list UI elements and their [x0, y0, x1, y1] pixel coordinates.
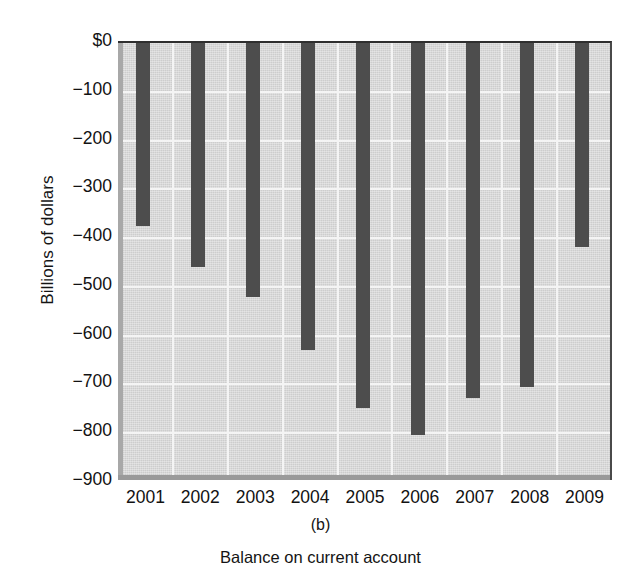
gridline-vertical [227, 43, 229, 480]
plot-area [118, 41, 612, 480]
plot-bottom-edge [118, 475, 610, 480]
y-axis-tick-label: $0 [54, 32, 112, 50]
gridline-vertical [556, 43, 558, 480]
gridline-vertical [446, 43, 448, 480]
figure-caption: Balance on current account [0, 548, 641, 567]
gridline-vertical [282, 43, 284, 480]
bar [191, 43, 205, 267]
y-axis-tick-label: −100 [54, 81, 112, 99]
x-axis-tick-label-group: 200120022003200420052006200720082009 [118, 487, 612, 513]
bar [466, 43, 480, 398]
gridline-vertical [391, 43, 393, 480]
y-axis-tick-label: −700 [54, 374, 112, 392]
panel-label: (b) [0, 516, 641, 534]
gridline-vertical [337, 43, 339, 480]
y-axis-tick-label: −300 [54, 179, 112, 197]
gridline-horizontal [118, 432, 610, 434]
y-axis-tick-label: −400 [54, 227, 112, 245]
gridline-vertical [501, 43, 503, 480]
bar [575, 43, 589, 247]
chart-figure: Billions of dollars $0−100−200−300−400−5… [0, 0, 641, 581]
bar [411, 43, 425, 435]
y-axis-tick-label-group: $0−100−200−300−400−500−600−700−800−900 [54, 41, 112, 480]
y-axis-tick-label: −800 [54, 422, 112, 440]
bar [301, 43, 315, 350]
y-axis-tick-label: −600 [54, 325, 112, 343]
plot-left-edge [118, 43, 123, 480]
y-axis-tick-label: −500 [54, 276, 112, 294]
x-axis-tick-label: 2009 [550, 487, 620, 509]
gridline-vertical [172, 43, 174, 480]
bar [136, 43, 150, 226]
bar [356, 43, 370, 408]
y-axis-tick-label: −200 [54, 130, 112, 148]
y-axis-tick-label: −900 [54, 471, 112, 489]
bar [246, 43, 260, 297]
bar [520, 43, 534, 387]
